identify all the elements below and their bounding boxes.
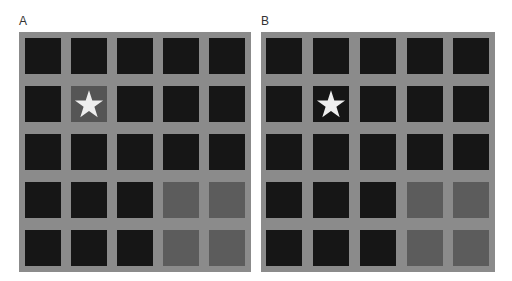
- grid-cell: [71, 86, 107, 122]
- grid-cell: [117, 182, 153, 218]
- grid-cell: [117, 230, 153, 266]
- grid-cell: [25, 230, 61, 266]
- grid-cell: [453, 134, 489, 170]
- grid-cell: [453, 182, 489, 218]
- grid-cell: [25, 86, 61, 122]
- grid-cell: [163, 230, 199, 266]
- grid-cell: [453, 38, 489, 74]
- grid-cell: [360, 86, 396, 122]
- grid-cell: [266, 38, 302, 74]
- grid-cell: [209, 182, 245, 218]
- grid-cell: [209, 230, 245, 266]
- grid-cell: [117, 86, 153, 122]
- grid-cell: [313, 230, 349, 266]
- grid-cell: [163, 134, 199, 170]
- grid-cell: [407, 182, 443, 218]
- grid-cell: [360, 230, 396, 266]
- grid-cell: [163, 86, 199, 122]
- star-icon: [74, 89, 104, 119]
- grid-cell: [360, 182, 396, 218]
- grid-cell: [25, 182, 61, 218]
- grid-cell: [71, 182, 107, 218]
- star-icon: [316, 89, 346, 119]
- grid-cell: [313, 38, 349, 74]
- panel-b-label: B: [261, 14, 269, 28]
- grid-cell: [313, 134, 349, 170]
- grid-cell: [117, 38, 153, 74]
- grid-cell: [453, 86, 489, 122]
- grid-cell: [163, 38, 199, 74]
- panel-a-label: A: [19, 14, 27, 28]
- grid-cell: [209, 86, 245, 122]
- grid-cell: [407, 230, 443, 266]
- grid-cell: [313, 86, 349, 122]
- grid-cell: [266, 134, 302, 170]
- grid-cell: [266, 230, 302, 266]
- grid-cell: [71, 230, 107, 266]
- grid-cell: [25, 134, 61, 170]
- grid-cell: [360, 38, 396, 74]
- grid-cell: [71, 38, 107, 74]
- panel-a-grid: [19, 32, 251, 272]
- grid-cell: [25, 38, 61, 74]
- grid-cell: [313, 182, 349, 218]
- grid-cell: [360, 134, 396, 170]
- panel-b-grid: [261, 32, 495, 272]
- grid-cell: [209, 38, 245, 74]
- grid-cell: [117, 134, 153, 170]
- grid-cell: [209, 134, 245, 170]
- grid-cell: [71, 134, 107, 170]
- grid-cell: [163, 182, 199, 218]
- grid-cell: [266, 86, 302, 122]
- grid-cell: [266, 182, 302, 218]
- grid-cell: [453, 230, 489, 266]
- grid-cell: [407, 38, 443, 74]
- grid-cell: [407, 86, 443, 122]
- grid-cell: [407, 134, 443, 170]
